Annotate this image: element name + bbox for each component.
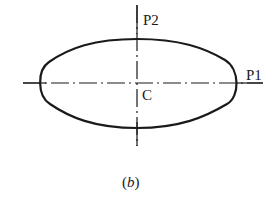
p1-label: P1 — [246, 68, 262, 83]
caption-letter: b — [127, 174, 135, 190]
figure-caption: (b) — [122, 175, 140, 190]
caption-close-paren: ) — [135, 174, 140, 190]
p2-label: P2 — [143, 13, 159, 28]
lens-cross-section-diagram — [0, 0, 280, 202]
center-label: C — [142, 88, 152, 103]
